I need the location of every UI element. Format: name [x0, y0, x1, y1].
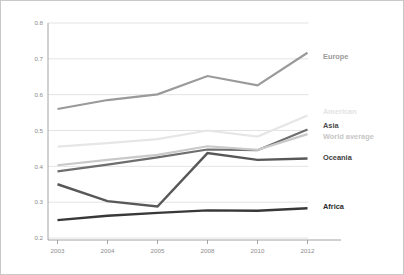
series-label-europe: Europe — [323, 52, 348, 61]
axes-group — [48, 23, 341, 240]
y-tick-label: 0.5 — [34, 127, 43, 134]
x-tick-label: 2010 — [251, 247, 265, 254]
series-line-africa — [58, 208, 308, 220]
y-tick-label: 0.4 — [34, 163, 43, 170]
x-tick-label: 2003 — [51, 247, 65, 254]
y-axis-tick-labels: 0.20.30.40.50.60.70.8 — [34, 19, 43, 241]
x-axis-tick-labels: 200320042005200820102012 — [51, 247, 315, 254]
series-label-world-average: World average — [323, 132, 374, 141]
x-tick-label: 2005 — [151, 247, 165, 254]
series-label-american: American — [323, 107, 357, 116]
series-label-africa: Africa — [323, 202, 345, 211]
line-chart-plot: 0.20.30.40.50.60.70.8 200320042005200820… — [1, 1, 404, 275]
y-tick-label: 0.7 — [34, 55, 43, 62]
y-tick-label: 0.2 — [34, 234, 43, 241]
series-label-asia: Asia — [323, 121, 340, 130]
chart-frame: 0.20.30.40.50.60.70.8 200320042005200820… — [0, 0, 404, 275]
x-tick-label: 2004 — [101, 247, 115, 254]
y-tick-label: 0.8 — [34, 19, 43, 26]
x-axis-tick-marks — [58, 240, 308, 244]
series-label-group: EuropeAmericanAsiaWorld averageOceaniaAf… — [323, 52, 374, 212]
y-tick-label: 0.3 — [34, 198, 43, 205]
series-line-europe — [58, 53, 308, 109]
x-tick-label: 2008 — [201, 247, 215, 254]
y-tick-label: 0.6 — [34, 91, 43, 98]
x-tick-label: 2012 — [301, 247, 315, 254]
series-label-oceania: Oceania — [323, 153, 353, 162]
series-line-american — [58, 115, 308, 146]
data-series-group — [58, 53, 308, 220]
